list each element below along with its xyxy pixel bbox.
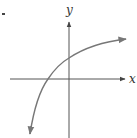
- curve-bottom-arrow: [30, 126, 31, 134]
- bullet-marker: [2, 13, 5, 15]
- y-axis-label: y: [65, 3, 73, 17]
- graph-canvas: y x: [0, 0, 137, 138]
- x-axis-label: x: [129, 72, 136, 86]
- function-curve: [30, 39, 126, 134]
